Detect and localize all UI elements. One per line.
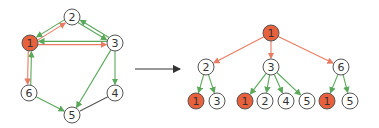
node-label: 5 [69, 109, 76, 122]
edge-green [199, 75, 204, 93]
tree-node-4: 4 [278, 93, 294, 109]
node-label: 1 [242, 95, 249, 108]
edge-green [78, 23, 106, 40]
tree-nodes: 123613124515 [188, 25, 358, 109]
tree-node-2: 2 [257, 93, 273, 109]
edge-red [278, 36, 333, 63]
tree-node-2: 2 [198, 59, 214, 75]
tree-node-1: 1 [188, 93, 204, 109]
edge-red [28, 51, 29, 84]
graph-node-5: 5 [64, 107, 80, 123]
edge-green [36, 97, 64, 111]
node-label: 5 [304, 95, 311, 108]
tree-node-1: 1 [319, 93, 335, 109]
graph-node-2: 2 [64, 9, 80, 25]
node-label: 3 [268, 61, 275, 74]
graph-to-tree-diagram: 123456 123613124515 [0, 0, 379, 128]
node-label: 3 [112, 37, 119, 50]
edge-plain [80, 97, 108, 111]
node-label: 3 [214, 95, 221, 108]
edge-green [250, 73, 266, 93]
node-label: 4 [283, 95, 290, 108]
edge-green [37, 20, 65, 37]
node-label: 1 [27, 37, 34, 50]
tree-node-3: 3 [209, 93, 225, 109]
edge-green [277, 72, 301, 94]
tree-node-3: 3 [263, 59, 279, 75]
edge-green [343, 75, 348, 93]
graph-node-1: 1 [22, 35, 38, 51]
node-label: 2 [203, 61, 210, 74]
tree-node-5: 5 [299, 93, 315, 109]
graph-edges [28, 20, 115, 111]
graph-node-3: 3 [107, 35, 123, 51]
node-label: 4 [112, 87, 119, 100]
tree-node-6: 6 [333, 59, 349, 75]
edge-red [214, 37, 264, 63]
edge-green [77, 50, 111, 107]
node-label: 2 [69, 11, 76, 24]
node-label: 5 [347, 95, 354, 108]
node-label: 1 [193, 95, 200, 108]
tree-node-5: 5 [342, 93, 358, 109]
node-label: 1 [268, 27, 275, 40]
node-label: 6 [338, 61, 345, 74]
edge-green [81, 20, 109, 37]
tree-node-1: 1 [263, 25, 279, 41]
edge-green [330, 74, 338, 92]
tree-node-1: 1 [237, 93, 253, 109]
node-label: 6 [26, 87, 33, 100]
edge-green [208, 75, 214, 93]
node-label: 2 [262, 95, 269, 108]
node-label: 1 [324, 95, 331, 108]
edge-green [31, 52, 32, 85]
edge-green [267, 75, 270, 92]
edge-red [38, 23, 66, 40]
graph-node-6: 6 [21, 85, 37, 101]
graph-node-4: 4 [107, 85, 123, 101]
graph-nodes: 123456 [21, 9, 123, 123]
